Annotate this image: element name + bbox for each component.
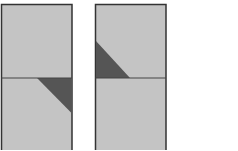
left-panel-box <box>2 5 73 151</box>
right-panel <box>96 5 167 151</box>
left-panel <box>2 5 73 151</box>
diagram-canvas <box>0 0 238 150</box>
